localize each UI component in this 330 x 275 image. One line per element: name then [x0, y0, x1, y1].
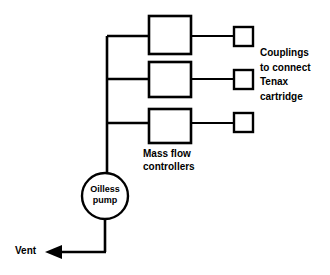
coupling-1 — [234, 27, 253, 46]
mass-flow-controllers-label: Mass flow controllers — [143, 147, 195, 173]
oilless-pump-label: Oilless pump — [77, 184, 133, 206]
coupling-2 — [234, 70, 253, 89]
couplings-label: Couplings to connect Tenax cartridge — [260, 46, 311, 104]
vent-label: Vent — [15, 244, 36, 257]
coupling-3 — [234, 113, 253, 132]
process-flow-diagram: Couplings to connect Tenax cartridge Mas… — [0, 0, 330, 275]
schematic-canvas — [0, 0, 330, 275]
mass-flow-controller-2 — [149, 62, 191, 97]
mass-flow-controller-3 — [149, 109, 191, 143]
vent-arrow-icon — [45, 245, 62, 259]
mass-flow-controller-1 — [149, 16, 191, 54]
